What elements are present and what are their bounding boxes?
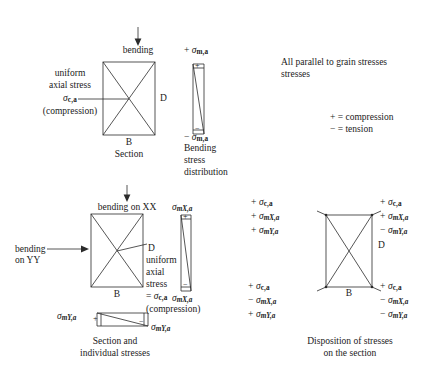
bottomright-caption-line1: Disposition of stresses (275, 336, 425, 347)
bottomleft-breadth-label: B (97, 289, 137, 300)
sign-plus: + (380, 281, 388, 293)
sign-plus: + (184, 45, 189, 55)
top-strip-upper-label: + σm,a (184, 45, 208, 58)
sigma-subscript: c,a (264, 200, 273, 208)
bottomright-breadth-label: B (329, 288, 369, 299)
bottomleft-strip-y-plus: + (93, 313, 98, 324)
bottomleft-bending-arrow-xx (124, 185, 131, 202)
sigma-subscript: c,a (158, 294, 167, 302)
bottomleft-uniform-sigma: = σc,a (146, 291, 168, 304)
bottomleft-bending-yy-line1: bending (15, 244, 46, 255)
bottomright-caption-line2: on the section (275, 348, 425, 359)
sign-minus: − (380, 309, 388, 321)
stress-term: +σc,a (251, 197, 279, 211)
stress-term: +σmX,a (251, 211, 279, 225)
bottomleft-depth-label: D (148, 243, 155, 254)
sign-minus: − (380, 225, 388, 237)
sigma-subscript: mX,a (261, 298, 277, 306)
sign-plus: + (380, 197, 388, 209)
stress-term: −σmY,a (380, 225, 408, 239)
top-section-rectangle (103, 62, 155, 135)
stress-term: +σmX,a (380, 211, 408, 225)
sign-plus: + (251, 197, 259, 209)
sign-plus: + (248, 309, 256, 321)
corner-labels-top-left: +σc,a+σmX,a+σmY,a (251, 197, 279, 238)
bottomleft-strip-y-left-label: σmY,a (57, 311, 76, 324)
sigma-subscript: mX,a (393, 214, 409, 222)
sigma-subscript: c,a (261, 284, 270, 292)
top-strip-caption-line1: Bending (184, 143, 216, 154)
bottomleft-caption-line1: Section and (52, 336, 178, 347)
legend-compression: + = compression (330, 112, 394, 123)
bottomleft-strip-x-plus: + (183, 211, 188, 222)
grain-stress-note-line2: stresses (281, 69, 310, 80)
sign-minus: − (380, 295, 388, 307)
stress-term: −σmY,a (380, 309, 408, 323)
sigma-subscript: c,a (393, 200, 402, 208)
bottomleft-strip-y-right-label: σmY,a (151, 322, 170, 335)
top-strip-minus-mark: − (195, 123, 200, 134)
top-depth-label: D (160, 93, 167, 104)
stress-term: −σmX,a (380, 295, 408, 309)
sigma-subscript: mY,a (393, 312, 408, 320)
sigma-subscript: c,a (393, 284, 402, 292)
stress-term: +σc,a (380, 281, 408, 295)
sign-plus: + (380, 211, 388, 223)
sign-plus: + (248, 281, 256, 293)
top-compression-note: (compression) (30, 106, 110, 117)
stress-term: +σmY,a (248, 309, 276, 323)
top-strip-caption-line2: stress (184, 155, 205, 166)
grain-stress-note: All parallel to grain stresses (281, 57, 387, 68)
sign-plus: + (251, 225, 259, 237)
sigma-subscript: mY,a (156, 325, 171, 333)
sign-minus: − (248, 295, 256, 307)
stress-diagram-figure: bending uniform axial stress σc,a (compr… (0, 0, 431, 371)
sign-plus: + (251, 211, 259, 223)
sigma-subscript: mX,a (177, 296, 193, 304)
bottomleft-uniform-line2: axial (146, 267, 164, 278)
top-strip-caption-line3: distribution (184, 167, 228, 178)
top-strip-plus-mark: + (195, 60, 200, 71)
top-bending-label: bending (106, 45, 170, 56)
top-uniform-axial-line2: axial stress (33, 80, 107, 91)
sigma-subscript: c,a (68, 96, 77, 104)
top-uniform-axial-line1: uniform (38, 68, 102, 79)
bending-xx-text: bending on XX (98, 202, 157, 212)
legend-tension: − = tension (330, 124, 373, 135)
sign-minus: − (184, 132, 189, 142)
sigma-subscript: mY,a (62, 314, 77, 322)
sigma-subscript: mY,a (393, 228, 408, 236)
equals-sign: = (146, 291, 151, 301)
bottomleft-strip-x-bottom-label: σmX,a (172, 293, 192, 306)
bottomleft-bending-yy-line2: on YY (15, 255, 40, 266)
sigma-subscript: mY,a (264, 228, 279, 236)
sigma-subscript: mY,a (261, 312, 276, 320)
bottomleft-caption-line2: individual stresses (52, 348, 178, 359)
bottomleft-strip-y-minus: − (139, 316, 144, 327)
top-breadth-label: B (109, 137, 149, 148)
corner-labels-top-right: +σc,a+σmX,a−σmY,a (380, 197, 408, 238)
sigma-subscript: m,a (196, 48, 208, 56)
bottomleft-bending-xx-label: bending on XX (70, 202, 184, 213)
bottomleft-axial-leader (117, 244, 147, 251)
bottomleft-strip-x-minus: − (183, 279, 188, 290)
corner-labels-bottom-left: +σc,a−σmX,a+σmY,a (248, 281, 276, 322)
bottomleft-section-rectangle (91, 214, 143, 287)
stress-term: +σc,a (380, 197, 408, 211)
bottomright-depth-label: D (378, 240, 385, 251)
sigma-subscript: mX,a (393, 298, 409, 306)
stress-term: +σmY,a (251, 225, 279, 239)
bottomleft-bending-arrow-yy (47, 246, 89, 253)
corner-labels-bottom-right: +σc,a−σmX,a−σmY,a (380, 281, 408, 322)
stress-term: +σc,a (248, 281, 276, 295)
top-section-caption: Section (103, 149, 155, 160)
bottomright-section-rectangle (326, 215, 372, 287)
sigma-subscript: mX,a (264, 214, 280, 222)
top-bending-arrow (135, 27, 142, 46)
stress-term: −σmX,a (248, 295, 276, 309)
top-sigma-c-a: σc,a (38, 93, 102, 106)
bottomleft-uniform-line1: uniform (146, 255, 177, 266)
bottomleft-uniform-line3: stress (146, 279, 167, 290)
